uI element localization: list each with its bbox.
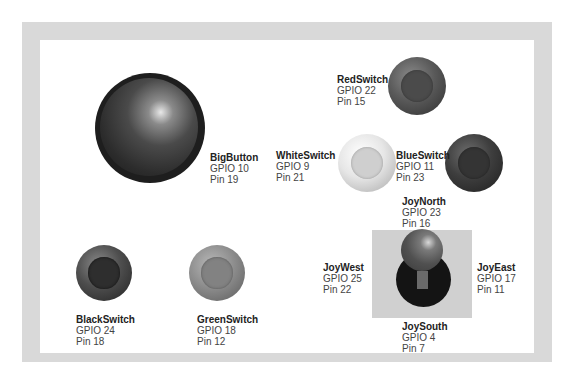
big-button-label: BigButton GPIO 10 Pin 19	[210, 152, 258, 185]
joy-north-label: JoyNorth GPIO 23 Pin 16	[402, 196, 446, 229]
white-switch[interactable]	[338, 134, 396, 192]
pin-number: Pin 19	[210, 174, 258, 185]
white-switch-label: WhiteSwitch GPIO 9 Pin 21	[276, 150, 335, 183]
gpio-number: GPIO 10	[210, 163, 258, 174]
control-name: BigButton	[210, 152, 258, 163]
red-switch[interactable]	[388, 57, 446, 115]
joystick-ball[interactable]	[401, 229, 443, 271]
black-switch[interactable]	[76, 245, 132, 301]
joystick-stem	[417, 271, 428, 289]
red-switch-label: RedSwitch GPIO 22 Pin 15	[337, 74, 388, 107]
blue-switch[interactable]	[445, 134, 503, 192]
green-switch-label: GreenSwitch GPIO 18 Pin 12	[197, 314, 258, 347]
joy-south-label: JoySouth GPIO 4 Pin 7	[402, 321, 448, 354]
green-switch[interactable]	[189, 245, 245, 301]
big-button-dome	[100, 78, 198, 176]
joy-east-label: JoyEast GPIO 17 Pin 11	[477, 262, 516, 295]
big-button[interactable]	[95, 73, 205, 183]
black-switch-label: BlackSwitch GPIO 24 Pin 18	[76, 314, 135, 347]
blue-switch-label: BlueSwitch GPIO 11 Pin 23	[396, 150, 450, 183]
joy-west-label: JoyWest GPIO 25 Pin 22	[323, 262, 364, 295]
